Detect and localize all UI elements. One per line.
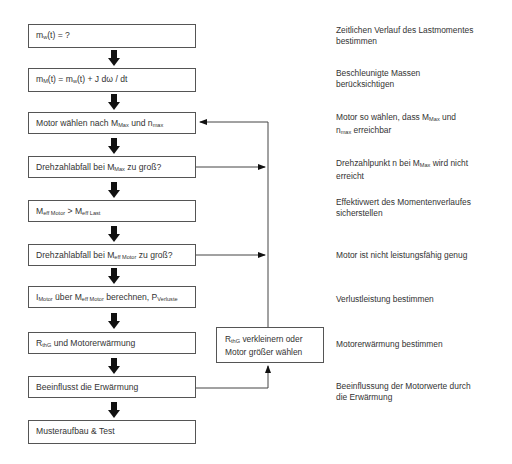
- step-eff-torque-compare: Meff Motor > Meff Last: [28, 200, 196, 222]
- step-select-motor: Motor wählen nach MMax und nmax: [28, 112, 196, 134]
- down-arrow-icon: [108, 268, 120, 284]
- down-arrow-icon: [108, 313, 120, 329]
- step-load-torque: mw(t) = ?: [28, 24, 196, 48]
- down-arrow-icon: [108, 358, 120, 374]
- down-arrow-icon: [108, 182, 120, 198]
- step-speed-drop-eff: Drehzahlabfall bei Meff Motor zu groß?: [28, 244, 196, 266]
- note-power-loss: Verlustleistung bestimmen: [336, 294, 508, 305]
- step-thermal-resistance: RthG und Motorerwärmung: [28, 332, 196, 354]
- side-box-reduce-rth: RthG verkleinern oderMotor größer wählen: [216, 327, 324, 363]
- note-load-torque: Zeitlichen Verlauf des Lastmomentesbesti…: [336, 25, 508, 47]
- note-motor-heating: Motorerwärmung bestimmen: [336, 339, 508, 350]
- step-speed-drop-max: Drehzahlabfall bei MMax zu groß?: [28, 156, 196, 178]
- down-arrow-icon: [108, 402, 120, 418]
- step-prototype-test: Musteraufbau & Test: [28, 420, 196, 444]
- step-motor-torque: mM(t) = mw(t) + J dω / dt: [28, 68, 196, 92]
- step-current-losses: IMotor über Meff Motor berechnen, PVerlu…: [28, 286, 196, 308]
- note-motor-insufficient: Motor ist nicht leistungsfähig genug: [336, 250, 508, 261]
- note-accelerated-masses: Beschleunigte Massenberücksichtigen: [336, 68, 508, 90]
- step-heating-influence: Beeinflusst die Erwärmung: [28, 376, 196, 398]
- down-arrow-icon: [108, 94, 120, 110]
- note-speed-point: Drehzahlpunkt n bei MMax wird nichterrei…: [336, 158, 508, 182]
- down-arrow-icon: [108, 138, 120, 154]
- down-arrow-icon: [108, 50, 120, 66]
- down-arrow-icon: [108, 226, 120, 242]
- note-select-motor: Motor so wählen, dass MMax undnmax errei…: [336, 112, 508, 138]
- note-heating-influence: Beeinflussung der Motorwerte durchdie Er…: [336, 381, 508, 403]
- note-rms-torque: Effektivwert des Momentenverlaufessicher…: [336, 197, 508, 219]
